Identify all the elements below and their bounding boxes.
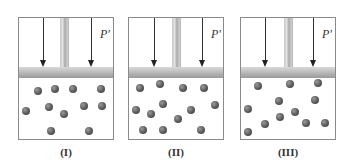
panel-label: (I) (18, 146, 114, 158)
gas-molecule-icon (136, 84, 144, 92)
pressure-label: P' (100, 27, 110, 42)
gas-molecule-icon (34, 87, 42, 95)
panel-label: (III) (240, 146, 336, 158)
piston-rod (284, 18, 293, 67)
gas-molecule-icon (211, 101, 219, 109)
gas-molecule-icon (69, 85, 77, 93)
gas-molecule-icon (98, 102, 106, 110)
container-panel-1: P' (18, 17, 114, 140)
piston (241, 67, 335, 78)
gas-molecule-icon (132, 106, 140, 114)
gas-molecule-icon (85, 127, 93, 135)
piston (129, 67, 223, 78)
pressure-arrow-left-icon (154, 18, 155, 65)
gas-molecule-icon (261, 120, 269, 128)
gas-molecule-icon (156, 80, 164, 88)
gas-molecule-icon (47, 127, 55, 135)
pressure-label: P' (322, 27, 332, 42)
gas-molecule-icon (314, 79, 322, 87)
gas-molecule-icon (244, 128, 252, 136)
gas-molecule-icon (45, 103, 53, 111)
gas-molecule-icon (60, 110, 68, 118)
gas-molecule-icon (139, 126, 147, 134)
gas-region (19, 78, 113, 139)
pressure-arrow-right-icon (91, 18, 92, 65)
gas-molecule-icon (22, 107, 30, 115)
gas-molecule-icon (147, 110, 155, 118)
gas-molecule-icon (159, 100, 167, 108)
piston (19, 67, 113, 78)
gas-molecule-icon (174, 115, 182, 123)
gas-molecule-icon (286, 80, 294, 88)
gas-molecule-icon (51, 85, 59, 93)
pressure-arrow-right-icon (313, 18, 314, 65)
gas-molecule-icon (291, 108, 299, 116)
piston-rod (60, 18, 69, 67)
gas-molecule-icon (275, 97, 283, 105)
panel-label: (II) (128, 146, 224, 158)
container-panel-3: P' (240, 17, 336, 140)
gas-molecule-icon (200, 84, 208, 92)
gas-molecule-icon (159, 126, 167, 134)
gas-molecule-icon (311, 96, 319, 104)
gas-molecule-icon (302, 119, 310, 127)
pressure-label: P' (211, 27, 221, 42)
gas-region (241, 78, 335, 139)
pressure-arrow-right-icon (202, 18, 203, 65)
gas-molecule-icon (187, 106, 195, 114)
gas-molecule-icon (276, 113, 284, 121)
gas-molecule-icon (244, 105, 252, 113)
gas-molecule-icon (97, 85, 105, 93)
gas-molecule-icon (179, 84, 187, 92)
container-panel-2: P' (128, 17, 224, 140)
gas-molecule-icon (80, 102, 88, 110)
piston-rod (172, 18, 181, 67)
gas-region (129, 78, 223, 139)
pressure-arrow-left-icon (43, 18, 44, 65)
gas-molecule-icon (254, 82, 262, 90)
gas-molecule-icon (197, 126, 205, 134)
pressure-arrow-left-icon (265, 18, 266, 65)
gas-molecule-icon (321, 119, 329, 127)
